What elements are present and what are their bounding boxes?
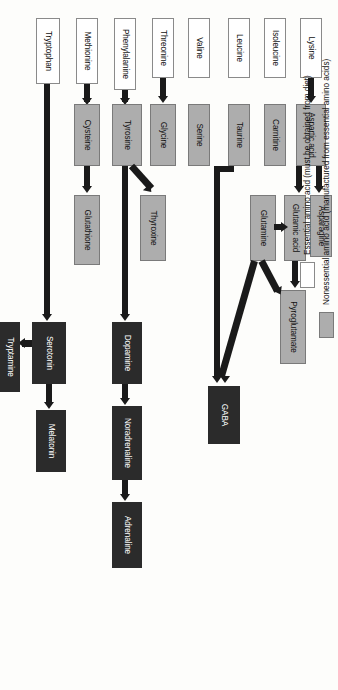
node-tryptophan: Tryptophan xyxy=(36,18,60,84)
legend-item-essential: Essential amino acid (must be obtained f… xyxy=(300,75,315,288)
arrowhead-taurine-gaba xyxy=(212,376,222,383)
node-melatonin: Melatonin xyxy=(36,410,66,472)
node-leucine: Leucine xyxy=(228,18,250,78)
edge-cysteine-glutathione xyxy=(84,166,90,188)
node-gaba: GABA xyxy=(208,386,240,444)
legend-item-nonessential: Nonessential amino acid (manufactured fr… xyxy=(319,59,334,338)
node-phenylalanine: Phenylalanine xyxy=(114,18,136,90)
legend-label-essential: Essential amino acid (must be obtained f… xyxy=(303,75,312,255)
edge-taurine-gaba xyxy=(214,166,220,378)
node-valine: Valine xyxy=(188,18,210,78)
node-noradrenaline: Noradrenaline xyxy=(112,406,142,480)
node-adrenaline: Adrenaline xyxy=(112,502,142,568)
node-glycine: Glycine xyxy=(150,104,176,166)
node-serine: Serine xyxy=(188,104,210,166)
arrowhead-threonine-glycine xyxy=(158,96,168,103)
node-serotonin: Serotonin xyxy=(32,322,66,384)
legend-label-nonessential: Nonessential amino acid (manufactured fr… xyxy=(322,59,331,305)
edge-glutamine-gaba xyxy=(218,260,258,377)
arrowhead-serotonin-melatonin xyxy=(44,402,54,409)
edge-serotonin-melatonin xyxy=(46,384,52,404)
node-tyrosine: Tyrosine xyxy=(112,104,142,166)
node-glutathione: Glutathione xyxy=(74,195,100,265)
edge-taurine-riser xyxy=(216,166,234,172)
node-tryptamine: Tryptamine xyxy=(0,322,20,392)
node-threonine: Threonine xyxy=(152,18,174,78)
legend-swatch-nonessential xyxy=(319,312,334,338)
node-taurine: Taurine xyxy=(228,104,250,166)
edge-tyrosine-dopamine xyxy=(122,166,128,316)
node-thyroxine: Thyroxine xyxy=(140,195,166,261)
arrowhead-cysteine-glutathione xyxy=(82,186,92,193)
arrowhead-dopamine-noradrenaline xyxy=(120,398,130,405)
arrowhead-tyrosine-dopamine xyxy=(120,314,130,321)
node-methionine: Methionine xyxy=(76,18,98,84)
arrowhead-noradrenaline-adrenaline xyxy=(120,494,130,501)
arrowhead-tryptophan-serotonin xyxy=(42,314,52,321)
legend-panel: Essential amino acid (must be obtained f… xyxy=(272,18,338,348)
node-dopamine: Dopamine xyxy=(112,322,142,384)
edge-threonine-glycine xyxy=(160,78,166,98)
legend-swatch-essential xyxy=(300,262,315,288)
edge-tryptophan-serotonin xyxy=(44,84,50,316)
node-cysteine: Cysteine xyxy=(74,104,100,166)
